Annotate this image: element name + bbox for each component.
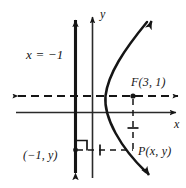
- x-axis-label: x: [174, 118, 180, 130]
- directrix-label: x = −1: [26, 48, 64, 61]
- focus-label: F(3, 1): [131, 76, 166, 88]
- y-axis-label: y: [100, 8, 106, 20]
- parabola-figure: x = −1 y x F(3, 1) P(x, y) (−1, y): [0, 0, 186, 188]
- point-on-directrix-label: (−1, y): [23, 149, 58, 161]
- focus-point: [130, 93, 135, 98]
- directrix-foot-point: [73, 148, 78, 153]
- parabola-arrow-lower: [145, 169, 149, 175]
- parabola-arrow-upper: [150, 21, 152, 26]
- point-p-label: P(x, y): [138, 145, 171, 157]
